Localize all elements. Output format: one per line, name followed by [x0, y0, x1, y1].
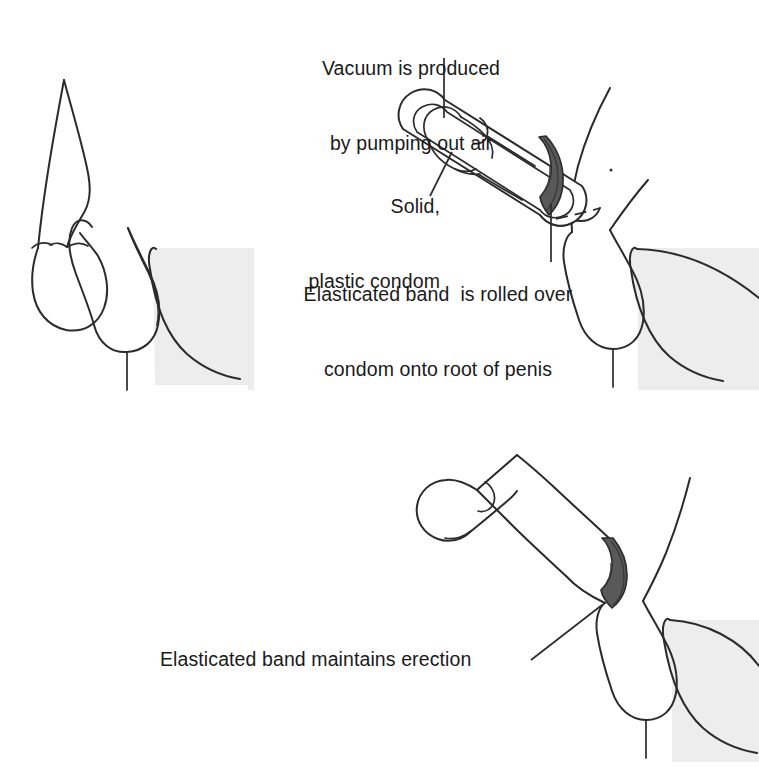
label-band-line1: Elasticated band is rolled over: [258, 282, 618, 307]
leader-maintains: [531, 605, 602, 660]
label-maintains-line1: Elasticated band maintains erection: [160, 647, 520, 672]
label-elasticated-band-maintains: Elasticated band maintains erection: [160, 597, 520, 722]
vacuum-erection-device-diagram: .ln { fill: none; stroke: #2b2b2b; strok…: [0, 0, 759, 770]
elasticated-band-erect: [601, 538, 627, 608]
label-vacuum-line1: Vacuum is produced: [276, 56, 546, 81]
label-elasticated-band-rolled: Elasticated band is rolled over condom o…: [258, 232, 618, 432]
label-condom-line1: Solid,: [200, 194, 440, 219]
label-band-line2: condom onto root of penis: [258, 357, 618, 382]
